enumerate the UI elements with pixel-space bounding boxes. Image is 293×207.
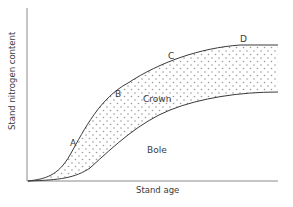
nitrogen-diagram: A B C D Crown Bole Stand age Stand nitro…: [0, 0, 293, 207]
crown-region: [28, 45, 278, 181]
bole-label: Bole: [147, 145, 167, 155]
point-c-label: C: [168, 51, 174, 61]
y-axis-label: Stand nitrogen content: [7, 31, 17, 130]
point-d-label: D: [240, 34, 247, 44]
point-b-label: B: [115, 89, 121, 99]
point-a-label: A: [70, 138, 77, 148]
x-axis-label: Stand age: [136, 185, 179, 195]
crown-label: Crown: [143, 94, 171, 104]
